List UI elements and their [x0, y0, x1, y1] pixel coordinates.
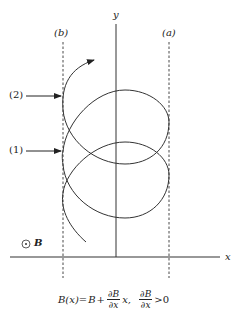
condition-denominator: ∂x: [141, 300, 151, 310]
marker-1-label: (1): [9, 144, 23, 155]
gradient-denominator: ∂x: [109, 300, 119, 310]
formula-gradient: ∂B ∂x: [107, 289, 120, 310]
boundary-a-label: (a): [162, 27, 176, 38]
b-field-dot-center-icon: [25, 243, 27, 245]
formula-lhs: B(x)=: [58, 294, 87, 305]
boundary-b-label: (b): [54, 27, 68, 38]
field-formula: B(x)= B + ∂B ∂x x, ∂B ∂x >0: [58, 289, 169, 310]
formula-condition: >0: [154, 294, 169, 305]
gradient-numerator: ∂B: [107, 289, 120, 300]
formula-gradient-condition: ∂B ∂x: [139, 289, 152, 310]
b-field-label: B: [34, 237, 42, 248]
diagram-canvas: [0, 0, 237, 316]
formula-x-term: x,: [122, 294, 131, 305]
condition-numerator: ∂B: [139, 289, 152, 300]
y-axis-label: y: [113, 9, 119, 20]
formula-plus: +: [97, 294, 105, 305]
formula-b: B: [88, 294, 95, 305]
marker-2-label: (2): [9, 89, 23, 100]
x-axis-label: x: [225, 251, 231, 262]
